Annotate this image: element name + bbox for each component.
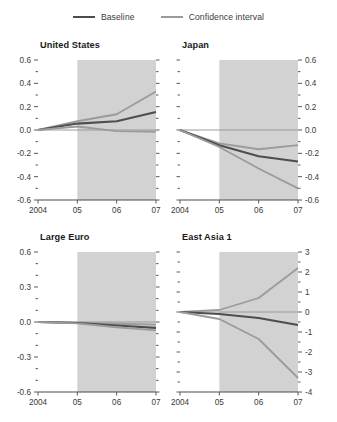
x-axis-label: 06 (112, 398, 122, 407)
y-axis-label: -0.3 (17, 353, 32, 362)
x-axis-label: 07 (293, 206, 303, 215)
plot-area-japan: 0.60.40.20.0-0.2-0.4-0.62004050607 (168, 54, 337, 230)
y-axis-label: -0.6 (17, 388, 32, 397)
x-axis-label: 05 (73, 398, 83, 407)
x-axis-label: 2004 (29, 206, 48, 215)
y-axis-label: 3 (305, 248, 310, 257)
legend-baseline: Baseline (73, 12, 135, 22)
y-axis-label: 0.0 (20, 318, 32, 327)
x-axis-label: 05 (215, 206, 225, 215)
y-axis-label: -0.6 (305, 196, 320, 205)
y-axis-label: -2 (305, 348, 313, 357)
y-axis-label: 0.0 (20, 126, 32, 135)
y-axis-label: 2 (305, 268, 310, 277)
y-axis-label: 0.6 (20, 56, 32, 65)
y-axis-label: 0.4 (305, 79, 317, 88)
panel-grid: United States0.60.40.20.0-0.2-0.4-0.6200… (0, 38, 337, 422)
y-axis-label: 0.6 (305, 56, 317, 65)
y-axis-label: 0 (305, 308, 310, 317)
y-axis-label: -0.6 (17, 196, 32, 205)
x-axis-label: 06 (112, 206, 122, 215)
y-axis-label: -1 (305, 328, 313, 337)
y-axis-label: -0.4 (17, 173, 32, 182)
y-axis-label: 0.2 (20, 103, 32, 112)
plot-area-united-states: 0.60.40.20.0-0.2-0.4-0.62004050607 (0, 54, 168, 230)
y-axis-label: -0.2 (17, 149, 32, 158)
y-axis-label: -0.2 (305, 149, 320, 158)
legend-baseline-swatch (73, 16, 95, 18)
chart-figure: BaselineConfidence interval United State… (0, 0, 337, 422)
x-axis-label: 07 (293, 398, 303, 407)
x-axis-label: 06 (254, 398, 264, 407)
panel-title-east-asia-1: East Asia 1 (182, 232, 232, 242)
x-axis-label: 2004 (171, 206, 190, 215)
legend-confidence-interval-label: Confidence interval (189, 12, 264, 22)
panel-large-euro: Large Euro0.60.30.0-0.3-0.62004050607 (0, 230, 168, 422)
panel-title-large-euro: Large Euro (40, 232, 90, 242)
panel-title-japan: Japan (182, 40, 209, 50)
x-axis-label: 07 (151, 206, 161, 215)
x-axis-label: 2004 (29, 398, 48, 407)
y-axis-label: 0.0 (305, 126, 317, 135)
plot-area-east-asia-1: 3210-1-2-3-42004050607 (168, 246, 337, 422)
panel-east-asia-1: East Asia 13210-1-2-3-42004050607 (168, 230, 337, 422)
panel-title-united-states: United States (40, 40, 100, 50)
y-axis-label: 0.4 (20, 79, 32, 88)
legend-confidence-interval-swatch (161, 16, 183, 18)
y-axis-label: 0.3 (20, 283, 32, 292)
y-axis-label: 1 (305, 288, 310, 297)
legend-baseline-label: Baseline (101, 12, 135, 22)
plot-area-large-euro: 0.60.30.0-0.3-0.62004050607 (0, 246, 168, 422)
x-axis-label: 06 (254, 206, 264, 215)
x-axis-label: 05 (73, 206, 83, 215)
x-axis-label: 05 (215, 398, 225, 407)
y-axis-label: 0.6 (20, 248, 32, 257)
y-axis-label: -4 (305, 388, 313, 397)
legend-confidence-interval: Confidence interval (161, 12, 264, 22)
panel-japan: Japan0.60.40.20.0-0.2-0.4-0.62004050607 (168, 38, 337, 230)
x-axis-label: 2004 (171, 398, 190, 407)
y-axis-label: -3 (305, 368, 313, 377)
chart-legend: BaselineConfidence interval (0, 12, 337, 22)
y-axis-label: 0.2 (305, 103, 317, 112)
x-axis-label: 07 (151, 398, 161, 407)
y-axis-label: -0.4 (305, 173, 320, 182)
panel-united-states: United States0.60.40.20.0-0.2-0.4-0.6200… (0, 38, 168, 230)
